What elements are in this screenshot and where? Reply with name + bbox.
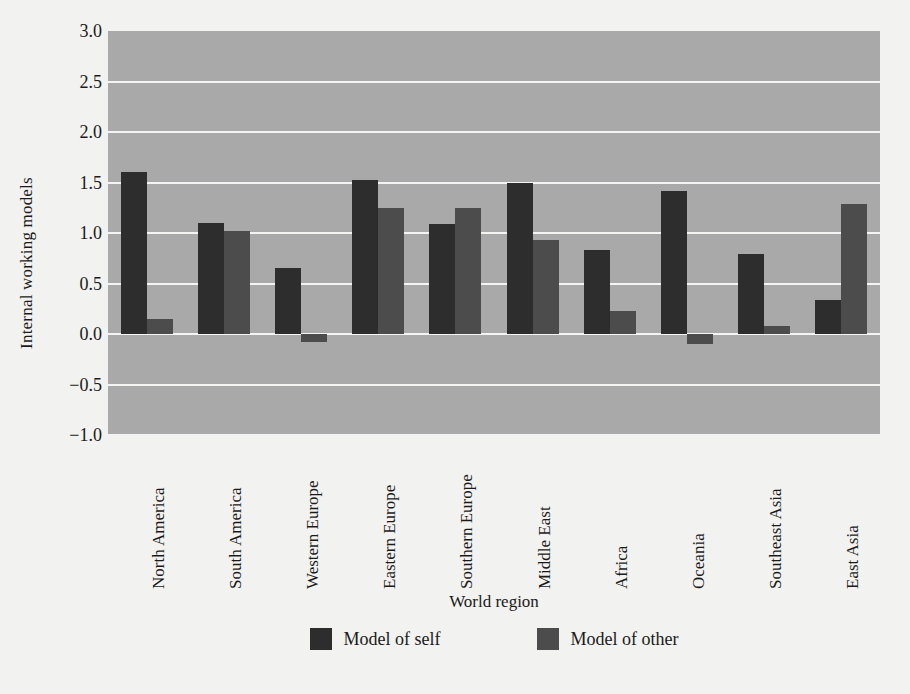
bar — [507, 183, 533, 335]
x-axis-tick-label: South America — [224, 487, 248, 589]
bars-layer — [108, 31, 880, 435]
bar — [841, 204, 867, 334]
bar — [352, 180, 378, 334]
bar-group — [198, 31, 250, 435]
bar — [378, 208, 404, 334]
y-axis-title: Internal working models — [12, 61, 42, 465]
x-axis-tick: Middle East — [521, 441, 545, 591]
bar — [275, 268, 301, 334]
bar-group — [738, 31, 790, 435]
x-axis-tick: Western Europe — [289, 441, 313, 591]
bar — [764, 326, 790, 334]
y-axis-tick-label: 2.0 — [40, 123, 102, 141]
y-axis-tick-label: 0.0 — [40, 325, 102, 343]
y-axis-tick-label: 0.5 — [40, 275, 102, 293]
y-axis-tick-label: 1.0 — [40, 224, 102, 242]
bar — [661, 191, 687, 334]
x-axis-title: World region — [108, 592, 880, 612]
bar — [147, 319, 173, 334]
bar — [429, 224, 455, 334]
legend-item: Model of self — [310, 628, 441, 650]
x-axis-tick: Southern Europe — [443, 441, 467, 591]
y-axis-tick-label: 2.5 — [40, 73, 102, 91]
bar-group — [584, 31, 636, 435]
x-axis-tick-label: Africa — [610, 546, 634, 589]
legend-label: Model of self — [344, 629, 441, 650]
x-axis-tick-label: Southeast Asia — [764, 488, 788, 589]
legend-swatch-icon — [537, 628, 559, 650]
x-axis-tick-label: Southern Europe — [455, 474, 479, 589]
x-axis-tick-label: Western Europe — [301, 480, 325, 589]
x-axis-tick: East Asia — [829, 441, 853, 591]
legend-label: Model of other — [571, 629, 679, 650]
bar-group — [352, 31, 404, 435]
y-axis-tick-label: 3.0 — [40, 22, 102, 40]
bar-group — [661, 31, 713, 435]
x-axis-tick-labels: North AmericaSouth AmericaWestern Europe… — [108, 441, 880, 591]
bar — [301, 334, 327, 342]
x-axis-tick: Africa — [598, 441, 622, 591]
x-axis-tick-label: North America — [147, 488, 171, 590]
chart-legend: Model of selfModel of other — [108, 622, 880, 656]
bar-group — [275, 31, 327, 435]
bar-group — [815, 31, 867, 435]
y-axis-tick-label: 1.5 — [40, 174, 102, 192]
x-axis-tick: Eastern Europe — [366, 441, 390, 591]
bar-chart-figure: Internal working models 3.02.52.01.51.00… — [0, 0, 910, 694]
x-axis-tick-label: Middle East — [533, 506, 557, 589]
x-axis-tick-label: Oceania — [687, 533, 711, 589]
legend-swatch-icon — [310, 628, 332, 650]
bar-group — [507, 31, 559, 435]
x-axis-tick-label: East Asia — [841, 525, 865, 589]
plot-area — [108, 31, 880, 435]
bar — [533, 240, 559, 334]
bar — [455, 208, 481, 334]
y-axis-tick-labels: 3.02.52.01.51.00.50.0−0.5−1.0 — [40, 31, 102, 435]
bar — [815, 300, 841, 334]
x-axis-tick-label: Eastern Europe — [378, 485, 402, 589]
bar — [224, 231, 250, 334]
x-axis-tick: Oceania — [675, 441, 699, 591]
bar-group — [429, 31, 481, 435]
bar-group — [121, 31, 173, 435]
x-axis-tick: South America — [212, 441, 236, 591]
y-axis-tick-label: −0.5 — [40, 376, 102, 394]
bar — [738, 254, 764, 334]
x-axis-tick: North America — [135, 441, 159, 591]
bar — [584, 250, 610, 334]
bar — [198, 223, 224, 334]
legend-item: Model of other — [537, 628, 679, 650]
bar — [121, 172, 147, 334]
bar — [687, 334, 713, 344]
y-axis-tick-label: −1.0 — [40, 426, 102, 444]
x-axis-tick: Southeast Asia — [752, 441, 776, 591]
bar — [610, 311, 636, 334]
